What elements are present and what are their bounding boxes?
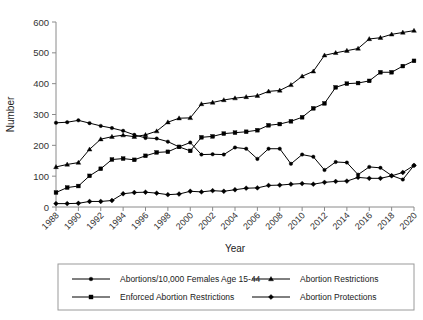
data-point-square bbox=[255, 128, 259, 132]
y-tick-label: 300 bbox=[33, 109, 49, 120]
data-point-circle bbox=[233, 146, 236, 149]
data-point-square bbox=[289, 119, 293, 123]
x-tick-label: 2006 bbox=[241, 210, 262, 231]
data-point-square bbox=[144, 154, 148, 158]
data-point-diamond bbox=[333, 179, 338, 184]
data-point-diamond bbox=[233, 187, 238, 192]
data-point-circle bbox=[244, 147, 247, 150]
data-point-square bbox=[244, 130, 248, 134]
series-2 bbox=[54, 59, 416, 194]
data-point-square bbox=[334, 85, 338, 89]
data-point-circle bbox=[289, 162, 292, 165]
legend-entry-label: Enforced Abortion Restrictions bbox=[120, 292, 234, 302]
x-tick-label: 2014 bbox=[331, 210, 352, 231]
data-point-circle bbox=[312, 155, 315, 158]
data-point-diamond bbox=[165, 192, 170, 197]
data-point-diamond bbox=[311, 182, 316, 187]
data-point-square bbox=[412, 59, 416, 63]
data-point-circle bbox=[121, 129, 124, 132]
data-point-circle bbox=[345, 161, 348, 164]
data-point-square bbox=[88, 174, 92, 178]
data-point-circle bbox=[77, 119, 80, 122]
x-axis-title: Year bbox=[225, 243, 246, 254]
data-point-diamond bbox=[210, 188, 215, 193]
data-point-circle bbox=[323, 168, 326, 171]
data-point-circle bbox=[110, 126, 113, 129]
data-point-square bbox=[401, 64, 405, 68]
data-point-square bbox=[89, 295, 93, 299]
legend-border bbox=[58, 264, 414, 310]
data-point-diamond bbox=[289, 182, 294, 187]
data-point-square bbox=[99, 167, 103, 171]
data-point-circle bbox=[89, 277, 93, 281]
data-point-diamond bbox=[244, 186, 249, 191]
data-point-circle bbox=[379, 166, 382, 169]
data-point-square bbox=[323, 102, 327, 106]
data-point-square bbox=[65, 186, 69, 190]
data-point-circle bbox=[166, 140, 169, 143]
data-point-square bbox=[345, 82, 349, 86]
data-point-diamond bbox=[98, 199, 103, 204]
data-point-circle bbox=[222, 153, 225, 156]
data-point-square bbox=[76, 184, 80, 188]
data-point-square bbox=[188, 149, 192, 153]
chart-legend: Abortions/10,000 Females Age 15-44Aborti… bbox=[58, 264, 414, 310]
data-point-square bbox=[110, 158, 114, 162]
data-point-diamond bbox=[110, 198, 115, 203]
data-point-diamond bbox=[154, 191, 159, 196]
data-point-diamond bbox=[322, 180, 327, 185]
y-axis: 0100200300400500600 bbox=[33, 17, 56, 213]
y-tick-label: 200 bbox=[33, 140, 49, 151]
x-tick-label: 2008 bbox=[263, 210, 284, 231]
data-point-triangle bbox=[121, 133, 126, 137]
data-point-diamond bbox=[132, 190, 137, 195]
data-point-square bbox=[311, 106, 315, 110]
data-point-square bbox=[379, 70, 383, 74]
data-point-diamond bbox=[344, 179, 349, 184]
x-tick-label: 2004 bbox=[219, 210, 240, 231]
x-tick-label: 1996 bbox=[129, 210, 150, 231]
data-point-diamond bbox=[143, 190, 148, 195]
data-point-diamond bbox=[199, 189, 204, 194]
x-axis: 1988199019921994199619982000200220042006… bbox=[40, 207, 419, 232]
data-point-square bbox=[267, 123, 271, 127]
y-tick-label: 400 bbox=[33, 78, 49, 89]
y-axis-title: Number bbox=[5, 96, 16, 132]
data-point-diamond bbox=[188, 189, 193, 194]
data-point-circle bbox=[368, 165, 371, 168]
x-tick-label: 1998 bbox=[152, 210, 173, 231]
y-tick-label: 0 bbox=[44, 202, 49, 213]
y-tick-label: 600 bbox=[33, 17, 49, 28]
data-point-square bbox=[233, 131, 237, 135]
data-point-circle bbox=[401, 178, 404, 181]
data-point-circle bbox=[278, 147, 281, 150]
x-tick-label: 2000 bbox=[174, 210, 195, 231]
data-point-circle bbox=[334, 160, 337, 163]
y-tick-label: 100 bbox=[33, 171, 49, 182]
x-tick-label: 1994 bbox=[107, 210, 128, 231]
data-point-diamond bbox=[121, 191, 126, 196]
data-point-diamond bbox=[65, 201, 70, 206]
legend-entry-label: Abortions/10,000 Females Age 15-44 bbox=[120, 274, 261, 284]
data-point-circle bbox=[300, 153, 303, 156]
data-point-diamond bbox=[76, 201, 81, 206]
data-point-circle bbox=[267, 147, 270, 150]
data-point-square bbox=[132, 158, 136, 162]
x-tick-label: 2016 bbox=[353, 210, 374, 231]
data-point-square bbox=[200, 135, 204, 139]
data-point-triangle bbox=[412, 28, 417, 32]
data-point-diamond bbox=[356, 175, 361, 180]
data-point-circle bbox=[88, 121, 91, 124]
y-tick-label: 500 bbox=[33, 47, 49, 58]
x-tick-label: 2002 bbox=[196, 210, 217, 231]
data-point-circle bbox=[155, 137, 158, 140]
data-point-square bbox=[211, 134, 215, 138]
line-chart-canvas: 0100200300400500600 19881990199219941996… bbox=[0, 0, 423, 320]
data-point-diamond bbox=[378, 176, 383, 181]
data-point-diamond bbox=[255, 185, 260, 190]
data-point-circle bbox=[54, 121, 57, 124]
chart-figure: 0100200300400500600 19881990199219941996… bbox=[0, 0, 423, 320]
data-point-square bbox=[367, 79, 371, 83]
data-point-circle bbox=[189, 141, 192, 144]
data-point-circle bbox=[99, 124, 102, 127]
